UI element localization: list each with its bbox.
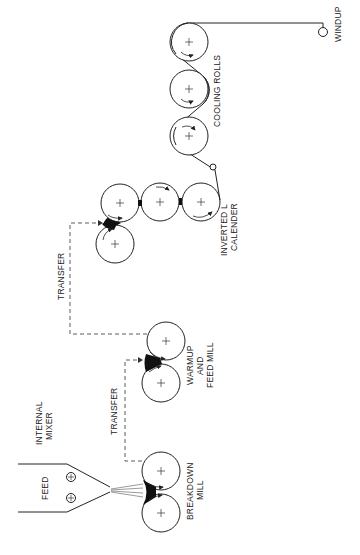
inverted-l-calender: INVERTED L CALENDER	[96, 183, 239, 263]
warmup-mill-label: FEED MILL	[205, 342, 215, 388]
cooling-rolls: COOLING ROLLS	[170, 23, 323, 200]
feed-label: FEED	[40, 477, 50, 500]
idler-roll	[210, 164, 216, 170]
internal-mixer-label: INTERNAL	[34, 401, 44, 445]
warmup-feed-mill: WARMUP AND FEED MILL	[142, 322, 215, 402]
breakdown-mill-label: MILL	[195, 480, 205, 500]
transfer-label: TRANSFER	[109, 388, 119, 435]
windup: WINDUP	[319, 6, 344, 42]
transfer-label: TRANSFER	[56, 253, 66, 300]
mixer-hopper-outline	[18, 464, 110, 512]
material-stream	[111, 484, 143, 497]
warmup-mill-label: WARMUP	[185, 345, 195, 385]
internal-mixer: FEED INTERNAL MIXER	[18, 401, 143, 512]
windup-roll	[319, 28, 328, 37]
calender-label: INVERTED L	[219, 204, 229, 256]
cooling-rolls-label: COOLING ROLLS	[212, 55, 222, 127]
breakdown-mill: BREAKDOWN MILL	[142, 452, 205, 532]
transfer-connector-1: TRANSFER	[109, 357, 143, 461]
calendering-process-diagram: FEED INTERNAL MIXER BREAKDOWN MILL TRANS…	[0, 0, 360, 555]
internal-mixer-label: MIXER	[44, 412, 54, 440]
warmup-mill-label: AND	[195, 356, 205, 375]
calender-label: CALENDER	[229, 203, 239, 251]
windup-label: WINDUP	[333, 6, 343, 42]
breakdown-mill-label: BREAKDOWN	[185, 462, 195, 520]
